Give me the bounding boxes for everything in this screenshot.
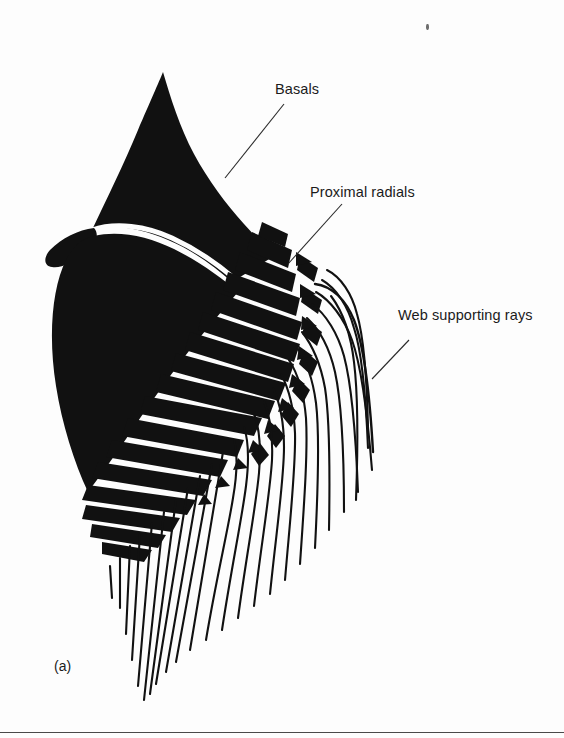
page-divider-rule bbox=[0, 732, 564, 733]
ray-bundle-outline bbox=[315, 284, 373, 452]
print-speck-artifact bbox=[426, 24, 429, 30]
interstitial-plate bbox=[233, 458, 248, 470]
web-ray bbox=[110, 566, 112, 598]
calyx-diagram bbox=[0, 0, 564, 738]
basals-leader bbox=[225, 104, 284, 178]
proximal-radials-leader bbox=[288, 204, 342, 264]
ray-bundle-edge bbox=[315, 284, 373, 452]
label-web-supporting-rays: Web supporting rays bbox=[398, 308, 533, 323]
figure-container: Basals Proximal radials Web supporting r… bbox=[0, 0, 564, 738]
label-proximal-radials: Proximal radials bbox=[310, 185, 415, 200]
web-ray bbox=[270, 388, 284, 594]
label-basals: Basals bbox=[275, 82, 319, 97]
web-ray bbox=[222, 427, 248, 630]
web-ray bbox=[126, 546, 130, 634]
web-supporting-rays-leader bbox=[372, 340, 409, 379]
figure-caption: (a) bbox=[54, 658, 71, 674]
